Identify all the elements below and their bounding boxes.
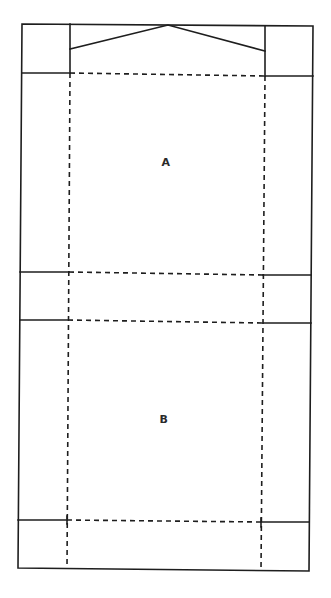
box-net-diagram	[0, 0, 331, 598]
top-fold	[70, 73, 265, 76]
bottom-fold	[67, 520, 261, 522]
tuck-flap-cut	[70, 25, 265, 51]
panel-label-b: B	[160, 413, 169, 426]
mid1-fold	[69, 272, 263, 275]
outer-cut-border	[18, 24, 313, 571]
panel-label-a: A	[161, 156, 170, 169]
mid2-fold	[68, 320, 263, 323]
